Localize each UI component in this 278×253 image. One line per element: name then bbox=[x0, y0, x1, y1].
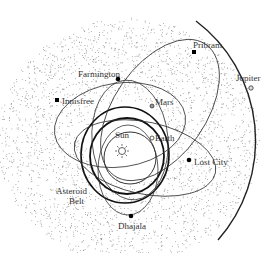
mars-marker bbox=[150, 104, 154, 108]
sun-icon bbox=[115, 144, 129, 158]
dhajala-marker bbox=[129, 214, 134, 219]
pribram-marker bbox=[192, 50, 196, 54]
asteroid-belt-label-line1: Asteroid bbox=[56, 186, 87, 196]
orbit-diagram-canvas bbox=[0, 0, 278, 253]
sun-label: Sun bbox=[115, 130, 129, 140]
earth-marker bbox=[150, 136, 154, 140]
jupiter-label: Jupiter bbox=[236, 73, 261, 83]
pribram-label: Pribram bbox=[193, 40, 222, 50]
asteroid-belt-label: Asteroid Belt bbox=[56, 186, 87, 206]
innisfree-orbit bbox=[49, 74, 191, 176]
earth-label: Earth bbox=[155, 133, 175, 143]
mars-label: Mars bbox=[155, 97, 174, 107]
dhajala-label: Dhajala bbox=[118, 221, 146, 231]
asteroid-belt-label-line2: Belt bbox=[59, 196, 84, 206]
farmington-label: Farmington bbox=[78, 69, 120, 79]
lostcity-label: Lost City bbox=[194, 157, 228, 167]
earth-orbit bbox=[104, 132, 156, 184]
innisfree-marker bbox=[55, 98, 59, 102]
lostcity-marker bbox=[187, 158, 192, 163]
jupiter-marker bbox=[249, 86, 253, 90]
solar-system-diagram: Pribram Farmington Innisfree Lost City D… bbox=[0, 0, 278, 253]
innisfree-label: Innisfree bbox=[62, 96, 94, 106]
